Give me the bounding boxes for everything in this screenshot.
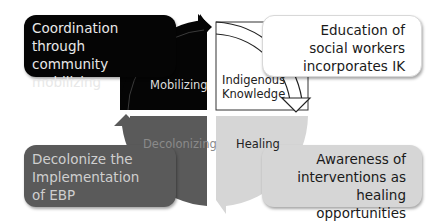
coordination-box: Coordination through community mobilizin… xyxy=(24,15,176,77)
awareness-line2: interventions as xyxy=(268,168,406,186)
mobilizing-label: Mobilizing xyxy=(150,78,208,92)
coordination-line1: Coordination through xyxy=(32,19,170,55)
indigenous-knowledge-line2: Knowledge xyxy=(222,87,285,101)
cycle-diagram: Coordination through community mobilizin… xyxy=(0,0,431,223)
decolonize-line3: of EBP xyxy=(32,186,170,204)
indigenous-knowledge-label: Indigenous Knowledge xyxy=(222,73,285,101)
education-line2: social workers xyxy=(269,39,405,57)
education-line1: Education of xyxy=(269,21,405,39)
coordination-line2: community xyxy=(32,55,170,73)
decolonizing-label: Decolonizing xyxy=(143,137,217,151)
decolonize-box: Decolonize the Implementation of EBP xyxy=(24,145,176,207)
awareness-box: Awareness of interventions as healing op… xyxy=(262,145,422,207)
decolonize-line1: Decolonize the xyxy=(32,150,170,168)
education-box: Education of social workers incorporates… xyxy=(262,15,422,77)
indigenous-knowledge-line1: Indigenous xyxy=(222,73,285,87)
education-line3: incorporates IK xyxy=(269,57,405,75)
healing-label: Healing xyxy=(236,137,280,151)
awareness-line1: Awareness of xyxy=(268,150,406,168)
decolonize-line2: Implementation xyxy=(32,168,170,186)
awareness-line3: healing opportunities xyxy=(268,186,406,222)
